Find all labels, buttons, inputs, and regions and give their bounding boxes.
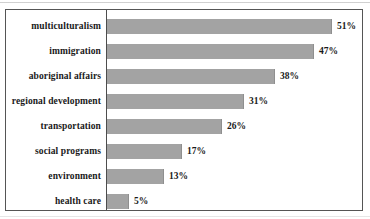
bar-rect [107,19,332,34]
bar-category-label: health care [6,189,101,214]
bar-value-label: 5% [134,189,148,214]
bar-value-label: 38% [280,64,299,89]
bar-value-label: 13% [169,164,188,189]
bar-row: immigration 47% [6,39,362,64]
bar-row: regional development 31% [6,89,362,114]
bar-category-label: environment [6,164,101,189]
bar-value-label: 26% [227,114,246,139]
bar-rect [107,194,129,209]
bar-category-label: social programs [6,139,101,164]
bar-rect [107,94,244,109]
bar-row: transportation 26% [6,114,362,139]
bar-rect [107,144,182,159]
bar-row: environment 13% [6,164,362,189]
bar-category-label: transportation [6,114,101,139]
plot-area: multiculturalism 51% immigration 47% abo… [6,10,362,210]
bar-value-label: 31% [249,89,268,114]
bar-value-label: 17% [187,139,206,164]
bar-category-label: multiculturalism [6,14,101,39]
scan-artifact-bottom-line [0,214,370,219]
bar-rect [107,169,164,184]
bar-rect [107,69,275,84]
bar-rect [107,119,222,134]
bar-category-label: regional development [6,89,101,114]
bar-row: aboriginal affairs 38% [6,64,362,89]
bar-category-label: aboriginal affairs [6,64,101,89]
scan-artifact-top-line [0,0,370,9]
bar-category-label: immigration [6,39,101,64]
bar-row: health care 5% [6,189,362,214]
chart-frame: multiculturalism 51% immigration 47% abo… [5,9,363,211]
bar-rect [107,44,314,59]
bar-row: multiculturalism 51% [6,14,362,39]
bar-value-label: 47% [319,39,338,64]
bar-value-label: 51% [337,14,356,39]
bar-row: social programs 17% [6,139,362,164]
